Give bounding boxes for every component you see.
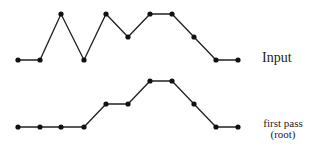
data-point [125, 101, 130, 106]
data-point [147, 78, 152, 83]
data-point [191, 101, 196, 106]
input-label: Input [262, 50, 292, 66]
data-point [125, 34, 130, 39]
data-point [37, 124, 42, 129]
data-point [213, 124, 218, 129]
data-point [235, 57, 240, 62]
data-point [103, 11, 108, 16]
data-point [37, 57, 42, 62]
data-point [213, 57, 218, 62]
data-point [81, 124, 86, 129]
data-point [169, 78, 174, 83]
data-point [169, 11, 174, 16]
data-point [15, 57, 20, 62]
data-point [191, 34, 196, 39]
data-point [58, 124, 63, 129]
data-point [81, 57, 86, 62]
data-point [235, 124, 240, 129]
first-pass-label: first pass (root) [258, 118, 308, 140]
data-point [58, 11, 63, 16]
data-point [147, 11, 152, 16]
data-point [15, 124, 20, 129]
first-pass-line2: (root) [258, 129, 308, 140]
data-point [103, 101, 108, 106]
